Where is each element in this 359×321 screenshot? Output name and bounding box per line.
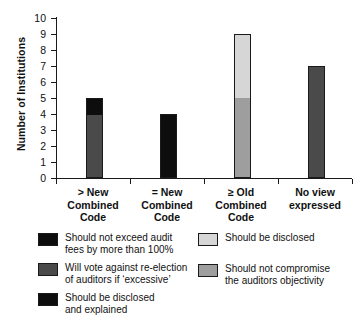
y-axis-tick-label: 4 <box>6 109 46 119</box>
legend-label: Should be disclosed <box>225 232 315 244</box>
y-axis-tick-label: 8 <box>6 45 46 55</box>
x-axis-separator <box>204 179 205 184</box>
legend-swatch-icon <box>38 233 58 246</box>
legend-swatch-icon <box>38 293 58 306</box>
legend-column-left: Should not exceed auditfees by more than… <box>38 232 196 321</box>
bar-1 <box>86 98 103 178</box>
legend-item[interactable]: Should not exceed auditfees by more than… <box>38 232 196 255</box>
y-axis-tick <box>51 114 56 115</box>
y-axis-tick-label: 5 <box>6 93 46 103</box>
y-axis-tick <box>51 66 56 67</box>
x-axis-separator <box>56 179 57 184</box>
y-axis-tick <box>51 34 56 35</box>
x-axis-separator <box>352 179 353 184</box>
y-axis-tick <box>51 98 56 99</box>
bar-segment <box>161 115 176 177</box>
plot-area <box>57 18 351 178</box>
bar-segment <box>87 115 102 177</box>
legend-swatch-icon <box>198 264 218 277</box>
bar-2 <box>160 114 177 178</box>
y-axis-tick-label: 10 <box>6 13 46 23</box>
y-axis-tick-label: 9 <box>6 29 46 39</box>
legend-label: Should not exceed auditfees by more than… <box>65 232 173 255</box>
legend-label: Will vote against re-electionof auditors… <box>65 262 187 285</box>
y-axis-tick <box>51 50 56 51</box>
legend-label: Should be disclosedand explained <box>65 292 155 315</box>
y-axis-tick <box>51 162 56 163</box>
y-axis-tick-label: 0 <box>6 173 46 183</box>
bar-segment <box>235 35 250 98</box>
legend-label: Should not compromisethe auditors object… <box>225 263 330 286</box>
x-axis-separator <box>130 179 131 184</box>
bar-segment <box>309 67 324 177</box>
y-axis-tick <box>51 146 56 147</box>
y-axis-tick-label: 3 <box>6 125 46 135</box>
y-axis-tick <box>51 82 56 83</box>
y-axis-tick-label: 1 <box>6 157 46 167</box>
chart-legend: Should not exceed auditfees by more than… <box>0 232 359 321</box>
x-axis-separator <box>278 179 279 184</box>
x-axis-category-label: No viewexpressed <box>272 186 358 211</box>
legend-item[interactable]: Should not compromisethe auditors object… <box>198 263 356 286</box>
y-axis-tick-label: 2 <box>6 141 46 151</box>
legend-swatch-icon <box>198 233 218 246</box>
bar-4 <box>308 66 325 178</box>
y-axis-tick <box>51 18 56 19</box>
bar-segment <box>87 99 102 115</box>
y-axis-tick-label: 7 <box>6 61 46 71</box>
bar-chart-figure: Number of Institutions 109876543210 > Ne… <box>0 0 359 321</box>
y-axis-tick-label: 6 <box>6 77 46 87</box>
legend-column-right: Should be disclosedShould not compromise… <box>198 232 356 293</box>
bar-3 <box>234 34 251 178</box>
legend-item[interactable]: Will vote against re-electionof auditors… <box>38 262 196 285</box>
bar-segment <box>235 98 250 177</box>
legend-item[interactable]: Should be disclosedand explained <box>38 292 196 315</box>
y-axis-tick <box>51 130 56 131</box>
legend-item[interactable]: Should be disclosed <box>198 232 356 246</box>
legend-swatch-icon <box>38 263 58 276</box>
